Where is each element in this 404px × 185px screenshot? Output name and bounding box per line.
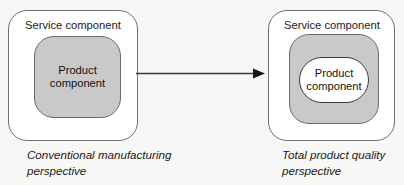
product-component-box-left: Product component: [34, 36, 121, 118]
service-component-box-left: Service component Product component: [8, 10, 138, 141]
product-component-label-right: Product component: [306, 67, 361, 94]
diagram-canvas: Service component Product component Conv…: [0, 0, 404, 185]
service-component-label-right: Service component: [284, 19, 380, 32]
product-component-pill-right: Product component: [299, 57, 369, 103]
service-component-box-right: Service component Product component: [268, 10, 395, 141]
service-component-label-left: Service component: [25, 19, 121, 32]
caption-left: Conventional manufacturing perspective: [27, 147, 237, 178]
caption-right: Total product quality perspective: [282, 147, 404, 178]
transition-arrow: [134, 62, 268, 86]
product-component-label-left: Product component: [50, 64, 105, 91]
product-component-box-right: Product component: [289, 34, 379, 124]
